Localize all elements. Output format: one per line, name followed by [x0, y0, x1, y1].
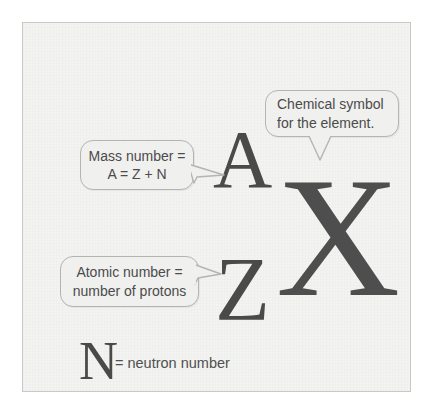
diagram-canvas: A X Z N = neutron number Mass number = A… — [0, 0, 434, 414]
callout-atomic-number: Atomic number = number of protons — [60, 256, 199, 307]
atomic-number-glyph: Z — [215, 245, 270, 335]
callout-symbol-line1: Chemical symbol — [277, 95, 384, 113]
callout-mass-line2: A = Z + N — [107, 165, 166, 183]
diagram-frame: A X Z N = neutron number Mass number = A… — [22, 22, 411, 392]
callout-chemical-symbol: Chemical symbol for the element. — [265, 90, 399, 137]
callout-mass-number: Mass number = A = Z + N — [80, 140, 194, 190]
callout-symbol-line2: for the element. — [277, 114, 374, 132]
neutron-number-glyph: N — [79, 334, 118, 388]
neutron-number-legend: = neutron number — [115, 355, 230, 371]
callout-atomic-line2: number of protons — [73, 282, 187, 300]
mass-number-glyph: A — [213, 119, 272, 201]
callout-mass-line1: Mass number = — [89, 147, 186, 165]
callout-atomic-line1: Atomic number = — [76, 263, 182, 281]
element-symbol-glyph: X — [276, 151, 400, 323]
